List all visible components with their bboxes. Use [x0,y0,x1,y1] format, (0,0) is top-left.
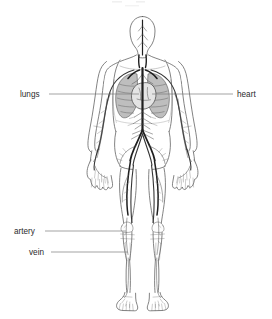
label-lungs: lungs [20,90,40,99]
label-heart: heart [237,90,256,99]
cropped-caption-remnant [112,1,145,6]
vascular-system-group [94,20,192,308]
label-artery: artery [14,227,36,236]
label-vein: vein [29,248,44,257]
circulatory-system-illustration: lungs heart artery vein [0,0,272,319]
body-outline-group [87,17,198,311]
leader-lines-group [45,94,233,252]
labels-group: lungs heart artery vein [14,90,256,257]
anatomical-figure: lungs heart artery vein [0,0,272,319]
